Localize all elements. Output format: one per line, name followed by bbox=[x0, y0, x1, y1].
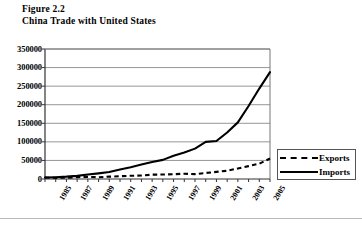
legend-item-exports: Exports bbox=[280, 151, 355, 165]
legend-item-imports: Imports bbox=[280, 165, 355, 179]
legend-label-exports: Exports bbox=[319, 151, 350, 165]
page-bottom-rule bbox=[0, 218, 362, 219]
y-axis-tick-label: 100000 bbox=[0, 137, 42, 146]
y-axis-tick-label: 150000 bbox=[0, 119, 42, 128]
legend-swatch-imports bbox=[280, 171, 318, 176]
y-axis-tick-label: 250000 bbox=[0, 82, 42, 91]
y-axis-tick-label: 0 bbox=[0, 175, 42, 184]
y-axis-tick-label: 50000 bbox=[0, 156, 42, 165]
y-axis-tick-label: 300000 bbox=[0, 63, 42, 72]
legend-label-imports: Imports bbox=[319, 165, 350, 179]
y-axis-tick-label: 200000 bbox=[0, 100, 42, 109]
series-line-imports bbox=[45, 72, 270, 177]
legend-swatch-exports bbox=[280, 157, 318, 162]
figure-title: China Trade with United States bbox=[22, 16, 156, 27]
gridlines bbox=[42, 49, 270, 179]
figure-number: Figure 2.2 bbox=[22, 4, 65, 15]
y-axis-tick-label: 350000 bbox=[0, 45, 42, 54]
chart-legend: Exports Imports bbox=[277, 149, 356, 180]
figure-page: Figure 2.2 China Trade with United State… bbox=[0, 0, 362, 225]
line-chart: 0500001000001500002000002500003000003500… bbox=[0, 40, 362, 200]
